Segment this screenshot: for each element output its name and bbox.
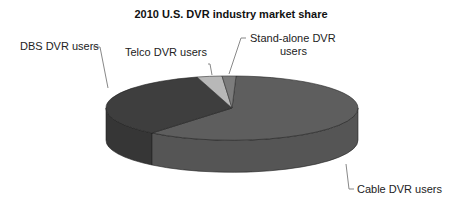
leader-dbs xyxy=(93,47,108,88)
label-standalone-2: users xyxy=(280,45,307,58)
label-cable: Cable DVR users xyxy=(357,183,442,196)
leader-telco xyxy=(208,64,212,75)
label-dbs: DBS DVR users xyxy=(20,40,99,53)
leader-cable xyxy=(346,164,354,189)
leader-standalone xyxy=(229,38,246,74)
pie-chart xyxy=(0,0,462,197)
label-standalone-1: Stand-alone DVR xyxy=(250,32,336,45)
label-telco: Telco DVR users xyxy=(125,46,207,59)
